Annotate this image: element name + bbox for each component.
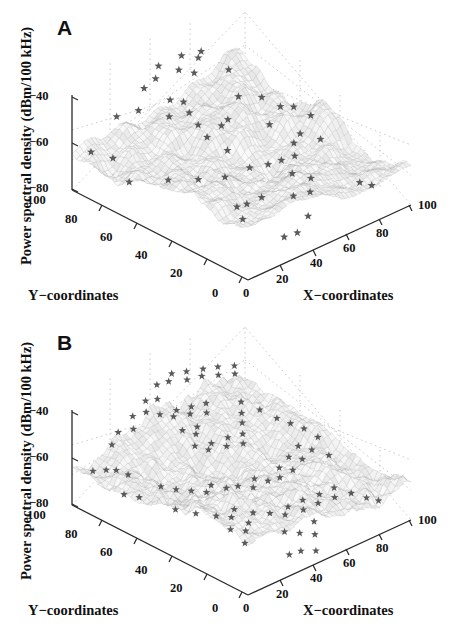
yaxis-title-a: Y−coordinates: [28, 287, 118, 304]
y-tick-b-20: 20: [170, 581, 183, 596]
x-tick-a-0: 0: [243, 286, 249, 301]
z-tick-a-1: −60: [29, 135, 49, 150]
x-tick-a-80: 80: [376, 226, 389, 241]
x-tick-b-100: 100: [418, 513, 437, 528]
x-tick-a-60: 60: [343, 241, 356, 256]
x-tick-a-100: 100: [418, 198, 437, 213]
z-tick-b-0: −40: [29, 404, 49, 419]
y-tick-a-40: 40: [135, 248, 148, 263]
y-tick-a-60: 60: [100, 230, 113, 245]
y-tick-b-0: 0: [212, 601, 218, 616]
x-tick-b-60: 60: [343, 556, 356, 571]
panel-a: A Power spectral density (dBm/100 kHz): [0, 0, 460, 315]
plot-surface-b: [0, 315, 460, 630]
xaxis-title-a: X−coordinates: [303, 287, 393, 304]
z-tick-a-0: −40: [29, 89, 49, 104]
y-tick-a-20: 20: [170, 266, 183, 281]
z-tick-b-1: −60: [29, 450, 49, 465]
figure-container: A Power spectral density (dBm/100 kHz): [0, 0, 460, 630]
yaxis-title-b: Y−coordinates: [28, 602, 118, 619]
y-tick-a-100: 100: [27, 193, 46, 208]
panel-b: B Power spectral density (dBm/100 kHz): [0, 315, 460, 630]
x-tick-b-0: 0: [243, 601, 249, 616]
y-tick-b-80: 80: [65, 527, 78, 542]
plot-surface-a: [0, 0, 460, 315]
x-tick-a-40: 40: [310, 256, 323, 271]
x-tick-b-80: 80: [376, 541, 389, 556]
y-tick-b-100: 100: [27, 508, 46, 523]
xaxis-title-b: X−coordinates: [303, 602, 393, 619]
y-tick-a-0: 0: [212, 286, 218, 301]
x-tick-a-20: 20: [276, 272, 289, 287]
x-tick-b-20: 20: [276, 587, 289, 602]
x-tick-b-40: 40: [310, 571, 323, 586]
y-tick-b-40: 40: [135, 563, 148, 578]
y-tick-a-80: 80: [65, 212, 78, 227]
y-tick-b-60: 60: [100, 545, 113, 560]
